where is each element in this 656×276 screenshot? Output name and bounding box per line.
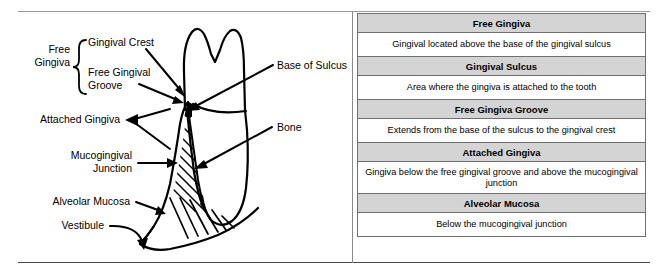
table-row: Below the mucogingival junction [358,213,646,237]
table-description-cell: Below the mucogingival junction [358,213,646,237]
table-description-cell: Gingiva below the free gingival groove a… [358,162,646,194]
diagram-label-bone: Bone [277,121,337,134]
diagram-label-attached-gingiva: Attached Gingiva [12,113,120,126]
figure-root: Free Gingiva Gingival Crest Free Gingiva… [0,0,656,276]
table-row: Area where the gingiva is attached to th… [358,76,646,100]
table-row: Free Gingiva Groove [358,100,646,119]
diagram-label-base-of-sulcus: Base of Sulcus [277,59,369,72]
diagram-label-mucogingival-junction: Mucogingival Junction [36,149,132,174]
table-header-cell: Alveolar Mucosa [358,194,646,213]
diagram-label-free-gingiva: Free Gingiva [14,43,70,68]
table-description-cell: Gingival located above the base of the g… [358,33,646,57]
diagram-label-vestibule: Vestibule [40,219,104,232]
gingiva-diagram: Free Gingiva Gingival Crest Free Gingiva… [18,12,352,262]
table-header-cell: Gingival Sulcus [358,57,646,76]
frame-rule-bottom [18,262,650,263]
gingiva-description-table: Free Gingiva Gingival located above the … [357,13,646,261]
frame-rule-divider [352,11,353,263]
diagram-label-free-gingival-groove: Free Gingival Groove [88,66,172,91]
table-row: Gingival located above the base of the g… [358,33,646,57]
table-description-cell: Extends from the base of the sulcus to t… [358,119,646,143]
table-row: Alveolar Mucosa [358,194,646,213]
table-header-cell: Free Gingiva Groove [358,100,646,119]
table-header-cell: Attached Gingiva [358,143,646,162]
diagram-label-gingival-crest: Gingival Crest [88,36,218,49]
table-description-cell: Area where the gingiva is attached to th… [358,76,646,100]
table-row: Gingiva below the free gingival groove a… [358,162,646,194]
table-row: Extends from the base of the sulcus to t… [358,119,646,143]
table-row: Free Gingiva [358,14,646,33]
table-header-cell: Free Gingiva [358,14,646,33]
diagram-label-alveolar-mucosa: Alveolar Mucosa [20,195,130,208]
table: Free Gingiva Gingival located above the … [357,13,646,237]
table-row: Gingival Sulcus [358,57,646,76]
table-row: Attached Gingiva [358,143,646,162]
free-gingiva-brace [73,40,86,94]
